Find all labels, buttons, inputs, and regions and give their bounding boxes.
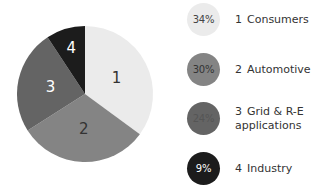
legend-text: Industry [247,162,292,175]
legend-item-grid-re: 24% 3Grid & R-E applications [187,102,320,136]
legend-item-consumers: 34% 1Consumers [187,3,320,37]
legend-label: 1Consumers [235,13,309,27]
legend-badge: 34% [187,3,220,36]
pie-slice-label: 2 [79,120,89,138]
legend-item-industry: 9% 4Industry [187,152,320,186]
legend-badge: 24% [187,102,220,135]
legend-text-line2: applications [235,119,301,132]
legend-text: Consumers [247,13,309,26]
legend-item-automotive: 30% 2Automotive [187,53,320,87]
pie-slice-label: 4 [67,39,77,57]
pie-chart: 1234 [0,0,170,192]
legend-text: Grid & R-E [247,105,304,118]
legend-number: 3 [235,105,242,118]
legend-badge: 30% [187,53,220,86]
legend-label: 3Grid & R-E applications [235,105,304,133]
legend-number: 2 [235,63,242,76]
legend-text: Automotive [247,63,311,76]
legend-label: 4Industry [235,162,292,176]
legend-number: 1 [235,13,242,26]
pie-slice-label: 3 [46,78,56,96]
legend-label: 2Automotive [235,63,311,77]
legend-number: 4 [235,162,242,175]
legend-badge: 9% [187,152,220,185]
pie-slice-label: 1 [112,69,122,87]
